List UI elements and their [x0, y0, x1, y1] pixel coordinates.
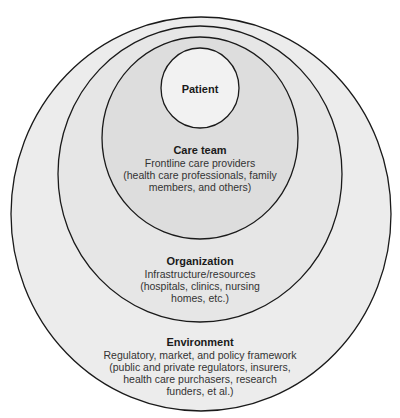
environment-line: (public and private regulators, insurers…: [0, 361, 400, 373]
patient-label: Patient: [0, 83, 400, 96]
patient-title: Patient: [0, 83, 400, 96]
care-team-label: Care team Frontline care providers (heal…: [0, 144, 400, 193]
care-team-line: (health care professionals, family: [0, 169, 400, 181]
organization-label: Organization Infrastructure/resources (h…: [0, 255, 400, 304]
environment-label: Environment Regulatory, market, and poli…: [0, 336, 400, 397]
environment-line: Regulatory, market, and policy framework: [0, 349, 400, 361]
organization-line: Infrastructure/resources: [0, 268, 400, 280]
organization-title: Organization: [0, 255, 400, 268]
organization-line: (hospitals, clinics, nursing: [0, 280, 400, 292]
care-team-title: Care team: [0, 144, 400, 157]
organization-line: homes, etc.): [0, 292, 400, 304]
environment-title: Environment: [0, 336, 400, 349]
care-team-line: members, and others): [0, 181, 400, 193]
environment-line: health care purchasers, research: [0, 373, 400, 385]
care-team-line: Frontline care providers: [0, 157, 400, 169]
environment-line: funders, et al.): [0, 385, 400, 397]
